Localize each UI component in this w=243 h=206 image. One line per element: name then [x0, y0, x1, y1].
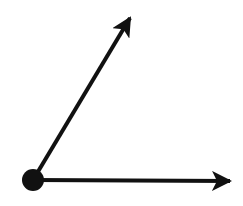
angle-diagram — [0, 0, 243, 206]
horizontal-ray-arrow — [33, 180, 230, 181]
vertex-point — [22, 169, 44, 191]
upper-ray-arrow — [33, 18, 130, 180]
